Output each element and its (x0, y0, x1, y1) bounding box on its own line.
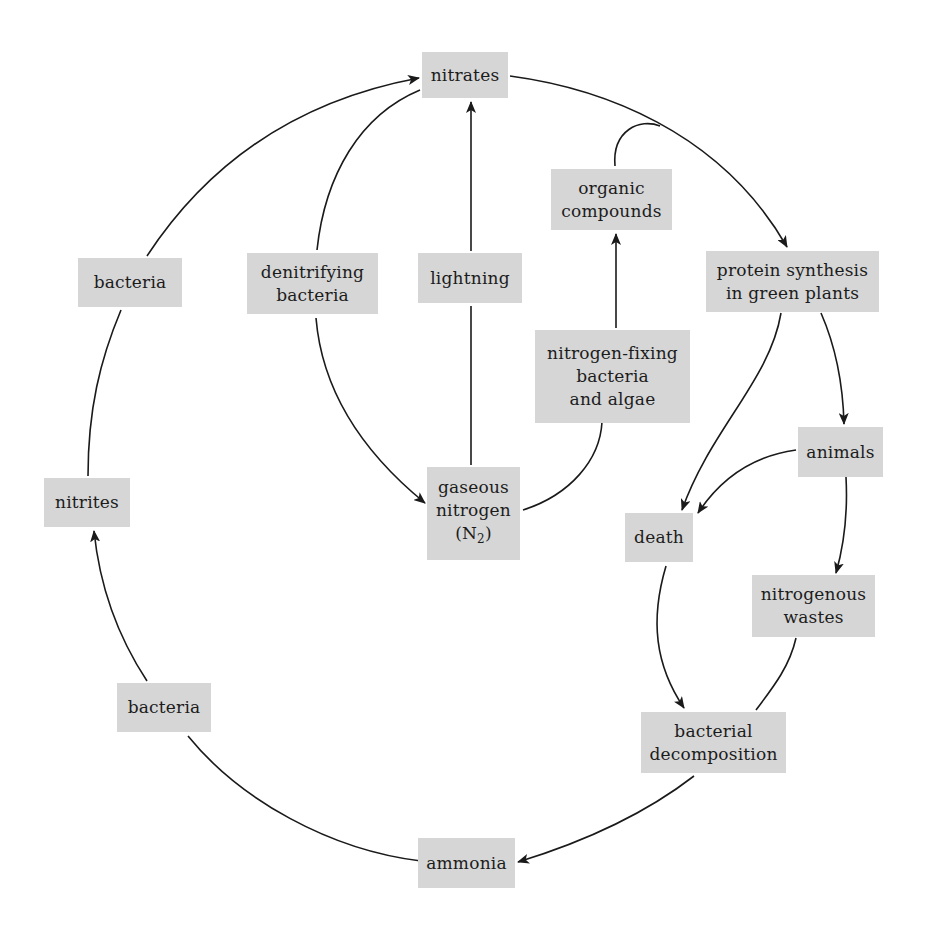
edge-decomposition-to-ammonia (518, 776, 694, 862)
diagram-connectors (0, 0, 928, 932)
node-bacteria-upper-label: bacteria (94, 271, 167, 294)
node-nitrogen-fixing: nitrogen-fixing bacteria and algae (535, 330, 690, 423)
node-lightning-label: lightning (430, 267, 510, 290)
node-lightning: lightning (418, 253, 522, 303)
node-protein-synthesis: protein synthesis in green plants (706, 251, 879, 312)
node-bacterial-decomposition-line2: decomposition (649, 743, 777, 766)
edge-gaseous-nitrogen-to-nitrogen-fixing (523, 422, 602, 510)
node-nitrites-label: nitrites (55, 491, 119, 514)
node-nitrates-label: nitrates (431, 64, 500, 87)
node-protein-synthesis-line2: in green plants (726, 282, 859, 305)
node-death: death (625, 513, 693, 562)
edge-organic-compounds-hook (615, 124, 660, 166)
node-gaseous-nitrogen-line1: gaseous (438, 476, 509, 499)
node-ammonia-label: ammonia (426, 852, 507, 875)
edge-bacteria-lower-to-nitrites (94, 531, 147, 681)
node-nitrogenous-wastes-line1: nitrogenous (761, 583, 867, 606)
node-nitrogen-fixing-line3: and algae (570, 388, 656, 411)
node-bacteria-lower: bacteria (117, 683, 211, 732)
node-gaseous-nitrogen-formula: (N2) (455, 522, 492, 551)
edge-death-to-decomposition (657, 566, 684, 708)
node-nitrogenous-wastes: nitrogenous wastes (752, 575, 875, 637)
node-death-label: death (634, 526, 684, 549)
edge-animals-to-death (698, 450, 796, 513)
node-nitrogen-fixing-line1: nitrogen-fixing (547, 342, 678, 365)
node-denitrifying-line1: denitrifying (261, 261, 364, 284)
node-nitrates: nitrates (422, 52, 508, 98)
node-nitrogen-fixing-line2: bacteria (576, 365, 649, 388)
node-ammonia: ammonia (418, 838, 515, 888)
edge-animals-to-nitrogenous-wastes (836, 477, 847, 573)
node-organic-compounds-line2: compounds (561, 200, 661, 223)
node-animals-label: animals (806, 441, 874, 464)
node-denitrifying-line2: bacteria (276, 284, 349, 307)
edge-nitrates-to-denitrifying (317, 90, 420, 250)
node-gaseous-nitrogen: gaseous nitrogen (N2) (427, 467, 520, 560)
edge-denitrifying-to-gaseous-nitrogen (316, 318, 425, 503)
edge-protein-to-animals (821, 313, 844, 424)
node-bacteria-upper: bacteria (78, 258, 182, 307)
node-bacterial-decomposition: bacterial decomposition (641, 712, 786, 773)
node-organic-compounds: organic compounds (551, 169, 672, 230)
edge-bacteria-upper-to-nitrates (147, 78, 419, 256)
node-gaseous-nitrogen-line2: nitrogen (436, 499, 511, 522)
node-bacterial-decomposition-line1: bacterial (674, 720, 752, 743)
nitrogen-cycle-diagram: nitrates organic compounds protein synth… (0, 0, 928, 932)
edge-wastes-to-decomposition (756, 638, 796, 710)
edge-ammonia-to-bacteria-lower (188, 736, 421, 861)
node-nitrogenous-wastes-line2: wastes (783, 606, 843, 629)
node-protein-synthesis-line1: protein synthesis (717, 259, 868, 282)
edge-nitrites-to-bacteria-upper (88, 310, 121, 476)
edge-protein-to-death (682, 313, 781, 510)
node-denitrifying-bacteria: denitrifying bacteria (247, 253, 378, 314)
node-bacteria-lower-label: bacteria (128, 696, 201, 719)
node-nitrites: nitrites (44, 478, 130, 527)
node-organic-compounds-line1: organic (578, 177, 645, 200)
node-animals: animals (798, 427, 883, 477)
